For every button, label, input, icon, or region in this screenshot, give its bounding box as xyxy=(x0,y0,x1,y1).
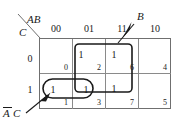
header-corner-cell: AB C xyxy=(18,13,41,38)
cell-index-3: 3 xyxy=(97,98,101,107)
cell-index-2: 2 xyxy=(97,63,101,72)
annotation-abar-c: A C xyxy=(2,93,51,120)
row-header-0: 0 xyxy=(28,53,33,64)
kmap-cell-1[interactable]: 1 1 xyxy=(51,84,69,107)
karnaugh-map-canvas: AB C 00 01 11 10 0 1 0 1 xyxy=(0,0,176,127)
column-header-row: 00 01 11 10 xyxy=(51,23,160,34)
karnaugh-map-figure: AB C 00 01 11 10 0 1 0 1 xyxy=(0,0,176,127)
cell-value-6: 1 xyxy=(112,49,117,60)
cell-value-1: 1 xyxy=(51,84,56,95)
group-abar-c-label-c: C xyxy=(13,107,21,119)
column-header-11: 11 xyxy=(117,23,127,34)
column-header-10: 10 xyxy=(150,23,160,34)
cell-index-4: 4 xyxy=(163,63,167,72)
kmap-cell-5[interactable]: 5 xyxy=(163,98,167,107)
cell-value-3: 1 xyxy=(84,84,89,95)
row-header-column: 0 1 xyxy=(28,53,33,95)
cell-index-0: 0 xyxy=(64,63,68,72)
cell-index-5: 5 xyxy=(163,98,167,107)
column-header-00: 00 xyxy=(51,23,61,34)
column-variable-label: AB xyxy=(26,13,41,25)
cell-value-2: 1 xyxy=(79,49,84,60)
cell-index-7: 7 xyxy=(130,98,134,107)
kmap-cell-7[interactable]: 1 7 xyxy=(112,83,135,107)
kmap-cell-6[interactable]: 1 6 xyxy=(112,49,135,72)
kmap-cell-0[interactable]: 0 xyxy=(64,63,68,72)
row-variable-label: C xyxy=(19,26,27,38)
kmap-cell-2[interactable]: 1 2 xyxy=(79,49,102,72)
group-b-label: B xyxy=(137,10,144,22)
cell-index-1: 1 xyxy=(64,98,68,107)
column-header-01: 01 xyxy=(84,23,94,34)
kmap-cell-4[interactable]: 4 xyxy=(163,63,167,72)
group-abar-c-label-a: A xyxy=(2,107,10,119)
row-header-1: 1 xyxy=(28,84,33,95)
